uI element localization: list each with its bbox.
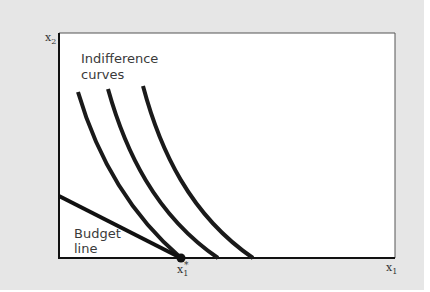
diagram-svg: Indifference curves Budget line x2 x1 x1… [0, 0, 430, 292]
budget-label-line2: line [74, 241, 97, 256]
indifference-label-line1: Indifference [81, 51, 158, 66]
x-axis-label: x1 [386, 261, 397, 276]
indifference-label-line2: curves [81, 67, 124, 82]
budget-label-line1: Budget [74, 226, 121, 241]
y-axis-label: x2 [45, 31, 56, 46]
optimum-star: * [184, 260, 189, 270]
